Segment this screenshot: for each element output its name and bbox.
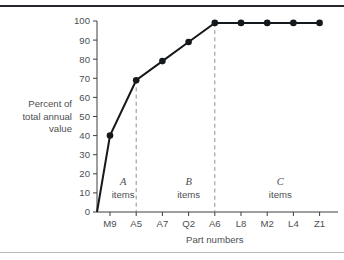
y-axis-title-line: total annual bbox=[22, 111, 72, 122]
y-tick-label: 40 bbox=[79, 130, 90, 141]
series-data-point bbox=[212, 20, 219, 27]
x-tick-label: L8 bbox=[236, 218, 247, 229]
x-tick-label: A7 bbox=[157, 218, 169, 229]
y-tick-label: 30 bbox=[79, 149, 90, 160]
zone-items-label: items bbox=[112, 189, 135, 200]
series-data-point bbox=[133, 77, 140, 84]
y-axis-title-line: Percent of bbox=[28, 98, 72, 109]
series-polyline bbox=[97, 23, 320, 212]
x-tick-label: L4 bbox=[288, 218, 299, 229]
y-tick-label: 0 bbox=[85, 206, 90, 217]
series-data-point bbox=[316, 20, 323, 27]
abc-analysis-figure: Percent oftotal annualvalue 010203040506… bbox=[0, 0, 344, 260]
y-tick-label: 80 bbox=[79, 54, 90, 65]
y-tick-label: 60 bbox=[79, 92, 90, 103]
y-tick-label: 70 bbox=[79, 73, 90, 84]
pareto-cumulative-chart: Percent oftotal annualvalue 010203040506… bbox=[0, 0, 344, 260]
series-data-point bbox=[290, 20, 297, 27]
y-axis-title-line: value bbox=[49, 123, 72, 134]
x-tick-label: Q2 bbox=[182, 218, 195, 229]
axis-lines bbox=[97, 21, 338, 212]
series-data-point bbox=[264, 20, 271, 27]
series-data-point bbox=[238, 20, 245, 27]
x-tick-label: A5 bbox=[130, 218, 142, 229]
y-tick-label: 50 bbox=[79, 111, 90, 122]
zone-letter-label: A bbox=[119, 176, 127, 187]
y-axis-title: Percent oftotal annualvalue bbox=[22, 98, 72, 134]
series-data-point bbox=[159, 58, 166, 65]
series-data-point bbox=[185, 39, 192, 46]
x-tick-label: M2 bbox=[261, 218, 274, 229]
x-axis-ticks: M9A5A7Q2A6L8M2L4Z1 bbox=[103, 212, 325, 229]
zone-letter-label: B bbox=[185, 176, 192, 187]
cumulative-series bbox=[97, 20, 323, 212]
y-tick-label: 90 bbox=[79, 35, 90, 46]
y-tick-label: 100 bbox=[74, 15, 90, 26]
x-tick-label: Z1 bbox=[314, 218, 325, 229]
zone-labels: AitemsBitemsCitems bbox=[112, 176, 292, 200]
x-axis-title: Part numbers bbox=[186, 234, 244, 245]
y-axis-ticks: 0102030405060708090100 bbox=[74, 15, 97, 217]
y-tick-label: 10 bbox=[79, 187, 90, 198]
x-tick-label: A6 bbox=[209, 218, 221, 229]
zone-letter-label: C bbox=[277, 176, 285, 187]
x-axis-title-text: Part numbers bbox=[186, 234, 244, 245]
x-tick-label: M9 bbox=[103, 218, 116, 229]
y-tick-label: 20 bbox=[79, 168, 90, 179]
series-data-point bbox=[107, 132, 114, 139]
zone-items-label: items bbox=[177, 189, 200, 200]
zone-items-label: items bbox=[269, 189, 292, 200]
